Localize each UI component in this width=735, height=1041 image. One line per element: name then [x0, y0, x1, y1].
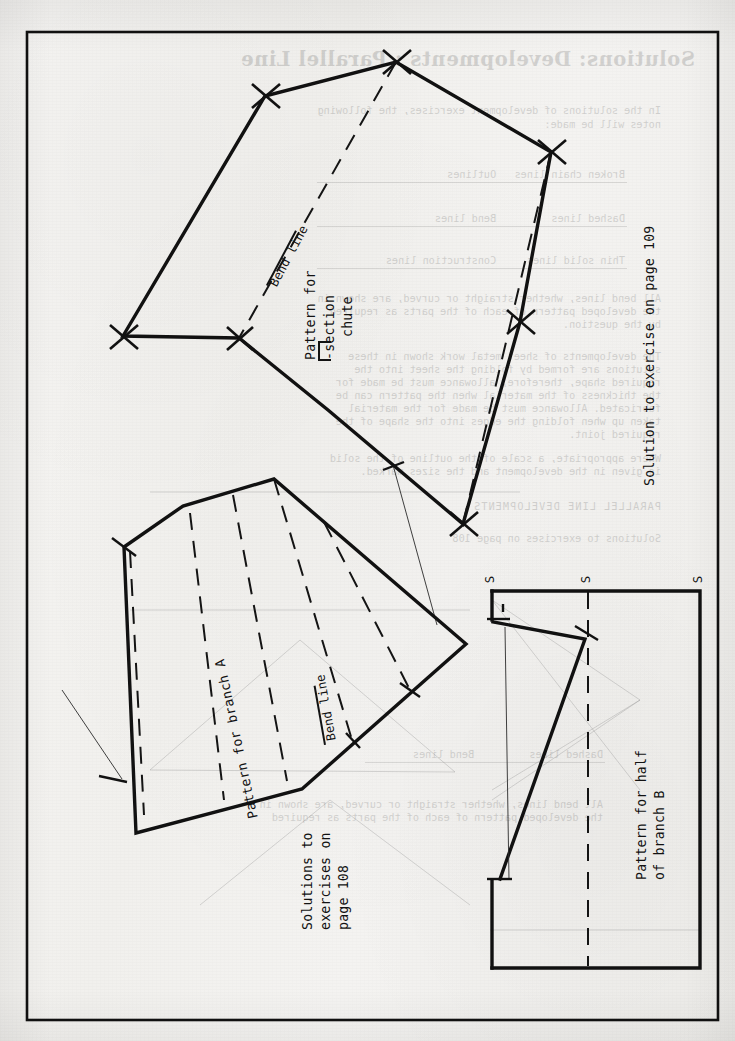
scanned-page: Solutions: Developments : Parallel Line … [0, 0, 735, 1041]
page-edge-shading [0, 0, 735, 1041]
